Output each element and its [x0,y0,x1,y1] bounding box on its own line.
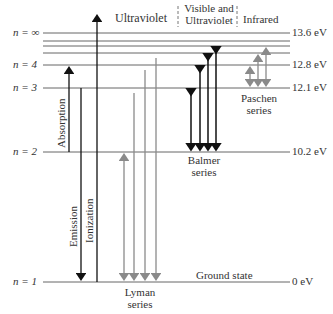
energy-label-13-6: 13.6 eV [292,27,327,38]
level-label-n-2: n = 2 [13,146,37,157]
balmer-label-line2: series [182,167,226,178]
paschen-series-arrows [250,51,266,83]
lyman-series-arrows [124,58,156,277]
paschen-label-line1: Paschen [236,93,282,104]
region-visible-line2: Ultraviolet [181,15,237,26]
energy-label-0: 0 eV [292,276,313,287]
energy-level-diagram [0,0,333,314]
emission-label: Emission [68,206,79,247]
region-ultraviolet: Ultraviolet [115,12,167,24]
balmer-label-line1: Balmer [182,155,226,166]
level-label-n-3: n = 3 [13,82,37,93]
energy-label-10-2: 10.2 eV [292,146,327,157]
ground-state-label: Ground state [196,270,253,281]
region-visible-line1: Visible and [181,3,237,14]
energy-label-12-8: 12.8 eV [292,59,327,70]
energy-levels [43,33,290,282]
level-label-n-inf: n = ∞ [13,27,39,38]
energy-label-12-1: 12.1 eV [292,82,327,93]
lyman-label-line2: series [118,299,162,310]
region-infrared: Infrared [243,14,278,25]
level-label-n-1: n = 1 [13,276,37,287]
lyman-label-line1: Lyman [118,287,162,298]
paschen-label-line2: series [236,105,282,116]
absorption-label: Absorption [56,99,67,149]
level-label-n-4: n = 4 [13,59,37,70]
ionization-label: Ionization [84,198,95,243]
